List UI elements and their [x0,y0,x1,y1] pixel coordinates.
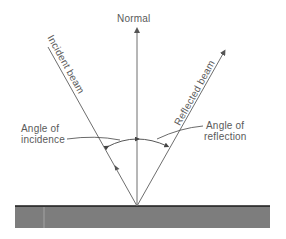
angle-of-incidence-label: Angle of incidence [21,123,65,145]
reflection-leader-line [157,126,203,139]
normal-label: Normal [117,13,150,24]
angle-reflection-line2: reflection [204,131,247,142]
angle-of-reflection-label: Angle of reflection [204,120,247,142]
reflecting-surface [15,206,270,228]
angle-incidence-line1: Angle of [21,123,65,134]
angle-reflection-line1: Angle of [204,120,247,131]
angle-incidence-line2: incidence [21,134,65,145]
incident-beam-arrow-icon [115,165,120,171]
incidence-leader-line [67,137,120,140]
